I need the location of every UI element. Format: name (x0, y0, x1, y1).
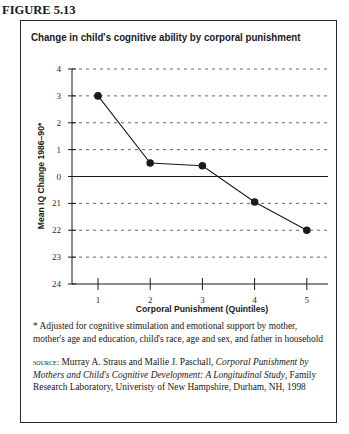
x-axis-title: Corporal Punishment (Quintiles) (136, 304, 268, 314)
source-authors: Murray A. Straus and Mallie J. Paschall, (59, 357, 216, 367)
data-point (199, 162, 207, 170)
y-tick-label: 22 (52, 225, 61, 235)
x-axis-ticks: 12345 (96, 278, 310, 305)
y-tick-label: 3 (57, 91, 62, 101)
footnote: * Adjusted for cognitive stimulation and… (33, 320, 331, 345)
data-point (251, 198, 259, 206)
y-tick-label: 1 (57, 145, 62, 155)
y-tick-label: 23 (52, 252, 62, 262)
data-point (146, 159, 154, 167)
data-point (94, 92, 102, 100)
data-point (303, 226, 311, 234)
y-tick-label: 4 (57, 64, 62, 74)
source-citation: source: Murray A. Straus and Mallie J. P… (33, 356, 333, 394)
data-series (94, 92, 310, 234)
y-tick-label: 24 (52, 279, 62, 289)
x-tick-label: 1 (96, 295, 101, 305)
y-tick-label: 2 (57, 118, 62, 128)
y-axis-title: Mean IQ Change 1986–90* (36, 122, 46, 229)
y-tick-label: 0 (57, 172, 62, 182)
source-lead: source: (33, 357, 59, 367)
x-tick-label: 5 (305, 295, 310, 305)
y-tick-label: 21 (52, 198, 61, 208)
